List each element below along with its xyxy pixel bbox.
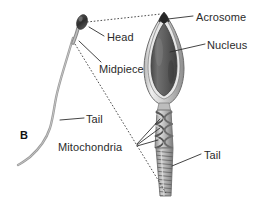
label-tail-left: Tail bbox=[86, 114, 103, 125]
sperm-anatomy-figure: Acrosome Nucleus Head Midpiece Tail Mito… bbox=[0, 0, 261, 203]
leader-tail-left bbox=[60, 118, 84, 120]
label-nucleus: Nucleus bbox=[207, 40, 247, 51]
label-tail-right: Tail bbox=[204, 150, 221, 161]
label-acrosome: Acrosome bbox=[196, 12, 246, 23]
leader-head bbox=[89, 27, 104, 36]
enlarged-sperm-section bbox=[144, 12, 184, 197]
leader-tail-right bbox=[172, 154, 201, 166]
leader-acrosome bbox=[168, 16, 193, 19]
label-midpiece: Midpiece bbox=[99, 64, 144, 75]
acrosome-dot bbox=[161, 15, 168, 24]
label-mitochondria: Mitochondria bbox=[58, 142, 122, 153]
label-head: Head bbox=[107, 32, 134, 43]
connector-top bbox=[87, 14, 161, 22]
leader-midpiece bbox=[79, 41, 101, 62]
panel-letter-b: B bbox=[20, 130, 28, 141]
